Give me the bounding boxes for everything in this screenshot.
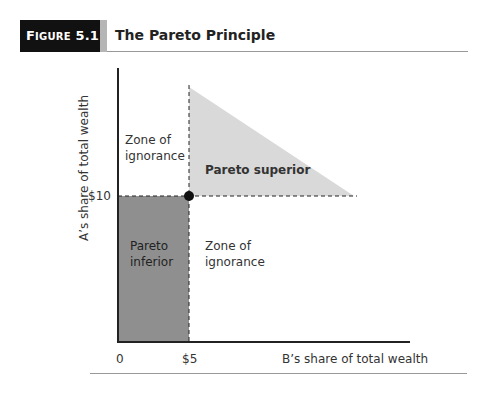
x-tick-5: $5 <box>182 351 197 367</box>
zone-ignorance-bottom-right: Zone of ignorance <box>205 238 265 270</box>
pareto-diagram <box>0 0 487 394</box>
pareto-inferior-label: Pareto inferior <box>130 238 173 270</box>
status-quo-point <box>184 191 194 201</box>
zone-label-line2: ignorance <box>205 254 265 270</box>
x-axis-label: B’s share of total wealth <box>282 351 428 367</box>
inferior-label-line1: Pareto <box>130 238 173 254</box>
zone-label-line2: ignorance <box>125 148 185 164</box>
zone-label-line1: Zone of <box>125 132 185 148</box>
pareto-superior-region <box>189 87 354 196</box>
y-axis-label: A’s share of total wealth <box>77 95 91 241</box>
inferior-label-line2: inferior <box>130 254 173 270</box>
x-tick-0: 0 <box>116 351 124 367</box>
zone-label-line1: Zone of <box>205 238 265 254</box>
zone-ignorance-top-left: Zone of ignorance <box>125 132 185 164</box>
y-tick-10: $10 <box>88 188 111 204</box>
pareto-superior-label: Pareto superior <box>205 162 310 178</box>
footer-rule <box>90 373 467 374</box>
